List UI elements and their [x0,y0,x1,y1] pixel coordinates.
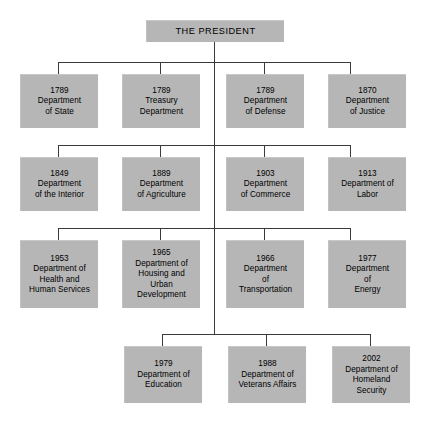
row-stub-3-0 [58,228,59,240]
node-label: 1953 Department of Health and Human Serv… [21,254,98,296]
node-the-president[interactable]: THE PRESIDENT [146,20,284,42]
row-stub-3-1 [160,228,161,240]
node-department-of-energy[interactable]: 1977 Department of Energy [328,240,406,308]
node-department-of-transportation[interactable]: 1966 Department of Transportation [226,240,304,308]
spine-connector [214,42,215,335]
row-stub-1-0 [58,62,59,74]
node-department-of-veterans-affairs[interactable]: 1988 Department of Veterans Affairs [228,346,306,403]
row-stub-1-3 [350,62,351,74]
node-department-of-homeland-security[interactable]: 2002 Department of Homeland Security [332,346,410,403]
row-stub-1-1 [160,62,161,74]
row-stub-4-2 [370,334,371,346]
node-department-of-commerce[interactable]: 1903 Department of Commerce [226,157,304,211]
row-stub-1-2 [264,62,265,74]
row-stub-4-0 [162,334,163,346]
node-label: 1913 Department of Labor [329,169,406,201]
node-label: 1870 Department of Justice [329,86,406,118]
node-label: 1977 Department of Energy [329,254,406,296]
row-stub-4-1 [266,334,267,346]
row-bus-1 [58,62,350,63]
node-label: 1979 Department of Education [125,359,202,391]
row-stub-3-3 [350,228,351,240]
row-stub-2-2 [264,145,265,157]
node-department-of-labor[interactable]: 1913 Department of Labor [328,157,406,211]
node-label: 2002 Department of Homeland Security [333,354,410,396]
row-stub-2-1 [160,145,161,157]
node-department-of-justice[interactable]: 1870 Department of Justice [328,74,406,128]
node-department-of-health-and-human-services[interactable]: 1953 Department of Health and Human Serv… [20,240,98,308]
node-label: 1965 Department of Housing and Urban Dev… [123,248,200,301]
node-department-of-the-interior[interactable]: 1849 Department of the Interior [20,157,98,211]
node-treasury-department[interactable]: 1789 Treasury Department [122,74,200,128]
row-bus-2 [58,145,350,146]
org-chart: THE PRESIDENT 1789 Department of State 1… [0,0,426,421]
node-label: 1889 Department of Agriculture [123,169,200,201]
node-label: 1903 Department of Commerce [227,169,304,201]
node-label: 1789 Department of State [21,86,98,118]
row-stub-2-0 [58,145,59,157]
node-label: 1988 Department of Veterans Affairs [229,359,306,391]
row-bus-3 [58,228,350,229]
node-department-of-housing-and-urban-development[interactable]: 1965 Department of Housing and Urban Dev… [122,240,200,308]
node-label: THE PRESIDENT [147,26,284,37]
node-label: 1966 Department of Transportation [227,254,304,296]
node-label: 1789 Treasury Department [123,86,200,118]
node-label: 1849 Department of the Interior [21,169,98,201]
node-department-of-agriculture[interactable]: 1889 Department of Agriculture [122,157,200,211]
row-stub-2-3 [350,145,351,157]
row-stub-3-2 [264,228,265,240]
node-department-of-state[interactable]: 1789 Department of State [20,74,98,128]
node-department-of-education[interactable]: 1979 Department of Education [124,346,202,403]
node-department-of-defense[interactable]: 1789 Department of Defense [226,74,304,128]
node-label: 1789 Department of Defense [227,86,304,118]
